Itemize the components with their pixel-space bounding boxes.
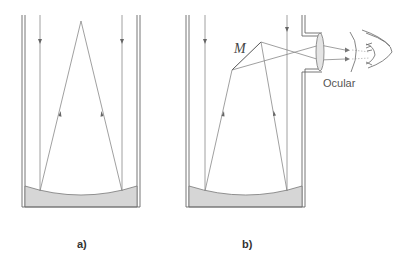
panel-b: [186, 15, 392, 207]
reflected-rays: [40, 21, 122, 191]
telescope-diagram: [0, 0, 404, 264]
rays-to-eye-dotted: [352, 50, 370, 59]
rays-to-eyepiece: [232, 42, 345, 70]
eyepiece-ray-arrows: [345, 48, 350, 62]
eye-icon: [350, 30, 392, 72]
eyepiece-label: Ocular: [323, 77, 355, 89]
incoming-rays: [40, 15, 122, 191]
panel-a: [22, 15, 140, 207]
tube-left-wall: [186, 15, 189, 207]
panel-a-label: a): [77, 238, 87, 250]
reflected-rays: [205, 42, 287, 191]
panel-b-label: b): [242, 238, 252, 250]
incoming-ray-arrows: [203, 27, 289, 44]
primary-mirror: [25, 186, 137, 207]
reflected-ray-arrows: [59, 111, 104, 117]
eyepiece-lens: [316, 33, 324, 71]
secondary-mirror-label: M: [234, 41, 246, 57]
incoming-rays: [205, 15, 287, 191]
tube-left-wall: [22, 15, 25, 207]
incoming-ray-arrows: [38, 39, 124, 44]
tube-right-wall: [137, 15, 140, 207]
reflected-ray-arrows: [222, 111, 277, 117]
primary-mirror: [189, 186, 302, 207]
